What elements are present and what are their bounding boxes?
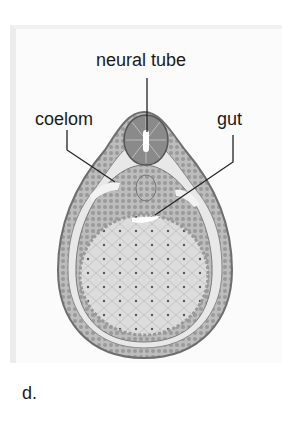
panel-label: d.	[22, 383, 37, 404]
yolk-endoderm	[80, 215, 208, 335]
neural-tube-label: neural tube	[96, 50, 186, 71]
coelom-label: coelom	[35, 109, 93, 130]
gut-label: gut	[217, 109, 242, 130]
notochord	[136, 175, 156, 201]
